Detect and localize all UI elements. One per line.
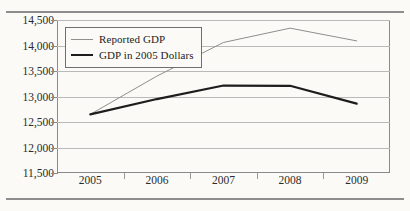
y-axis-tick-label: 11,500 bbox=[0, 167, 54, 179]
y-axis-tick-label: 14,500 bbox=[0, 14, 54, 26]
legend-swatch-line-thin bbox=[71, 39, 93, 40]
x-axis-tick-label: 2008 bbox=[279, 174, 302, 186]
y-axis-tick-label: 13,000 bbox=[0, 91, 54, 103]
x-axis-tick-label: 2006 bbox=[145, 174, 168, 186]
plot-area: Reported GDP GDP in 2005 Dollars bbox=[57, 20, 390, 173]
x-axis-tick-label: 2005 bbox=[79, 174, 102, 186]
y-axis-tick-label: 12,500 bbox=[0, 116, 54, 128]
top-horizontal-rule bbox=[6, 11, 404, 13]
legend-label-reported-gdp: Reported GDP bbox=[99, 33, 165, 45]
legend-swatch-line-thick bbox=[71, 54, 93, 56]
legend-item-reported-gdp: Reported GDP bbox=[71, 31, 194, 47]
x-axis-tick-mark bbox=[124, 173, 125, 179]
x-axis-tick-mark bbox=[190, 173, 191, 179]
legend-label-gdp-in-2005-dollars: GDP in 2005 Dollars bbox=[99, 49, 194, 61]
x-axis-tick-label: 2009 bbox=[345, 174, 368, 186]
y-axis-tick-mark bbox=[51, 173, 58, 174]
y-axis-tick-label: 14,000 bbox=[0, 40, 54, 52]
bottom-horizontal-rule bbox=[6, 198, 404, 200]
x-axis-tick-label: 2007 bbox=[212, 174, 235, 186]
series-line-gdp-in-2005-dollars bbox=[90, 86, 356, 115]
legend-item-gdp-in-2005-dollars: GDP in 2005 Dollars bbox=[71, 47, 194, 63]
chart-legend: Reported GDP GDP in 2005 Dollars bbox=[65, 27, 202, 68]
y-axis-tick-label: 12,000 bbox=[0, 142, 54, 154]
gdp-line-chart: 11,50012,00012,50013,00013,50014,00014,5… bbox=[0, 16, 410, 196]
x-axis-tick-mark bbox=[257, 173, 258, 179]
y-axis-tick-label: 13,500 bbox=[0, 65, 54, 77]
x-axis-tick-mark bbox=[323, 173, 324, 179]
